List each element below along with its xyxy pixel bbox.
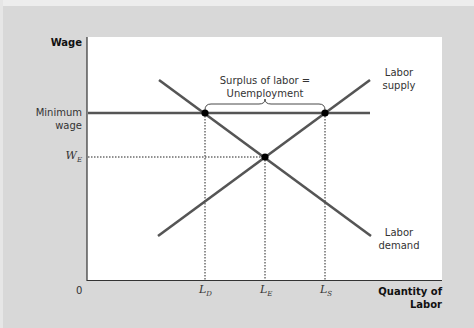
supply-label-line2: supply (374, 79, 424, 92)
min-wage-label-line2: wage (20, 119, 82, 132)
x-axis-label-line2: Labor (370, 298, 442, 311)
annotation-line2: Unemployment (205, 87, 325, 100)
ld-sub: D (206, 290, 212, 298)
surplus-annotation: Surplus of labor = Unemployment (205, 74, 325, 100)
labor-supply-label: Labor supply (374, 66, 424, 92)
we-label: WE (40, 149, 82, 167)
le-sub: E (267, 290, 272, 298)
ls-sub: S (327, 290, 332, 298)
labor-demand-label: Labor demand (374, 226, 424, 252)
surplus-brace (205, 99, 325, 110)
supply-label-line1: Labor (374, 66, 424, 79)
annotation-line1: Surplus of labor = (205, 74, 325, 87)
min-wage-label: Minimum wage (20, 106, 82, 132)
min-wage-label-line1: Minimum (20, 106, 82, 119)
point-equilibrium (261, 153, 268, 160)
ld-label: LD (199, 283, 212, 301)
y-axis-label: Wage (30, 36, 82, 49)
x-axis-label: Quantity of Labor (370, 285, 442, 311)
origin-label: 0 (76, 284, 82, 297)
demand-label-line1: Labor (374, 226, 424, 239)
ls-label: LS (320, 283, 332, 301)
x-axis-label-line1: Quantity of (370, 285, 442, 298)
demand-label-line2: demand (374, 239, 424, 252)
point-ls (321, 109, 328, 116)
we-sub: E (77, 156, 82, 164)
point-ld (201, 109, 208, 116)
we-main: W (66, 149, 77, 162)
le-label: LE (260, 283, 272, 301)
